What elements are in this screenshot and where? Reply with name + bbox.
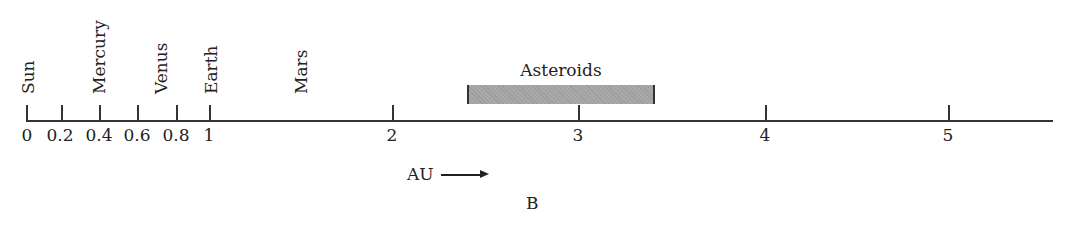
label-mars: Mars [291,50,311,94]
tick-label: 4 [760,125,771,145]
asteroids-label: Asteroids [520,60,601,80]
label-sun: Sun [18,60,38,94]
tick-label: 0 [22,125,33,145]
axis-line [26,120,1053,122]
tick-4 [765,105,767,120]
tick-2 [392,105,394,120]
tick-label: 0.8 [162,125,189,145]
tick-0.4 [99,105,101,120]
tick-5 [948,105,950,120]
tick-label: 0.2 [46,125,73,145]
asteroid-belt-bar [467,85,655,104]
tick-0 [26,105,28,120]
tick-0.8 [176,105,178,120]
tick-label: 0.6 [123,125,150,145]
tick-label: 1 [204,125,215,145]
arrow-right-icon [441,174,481,176]
label-venus: Venus [151,43,171,94]
tick-label: 0.4 [85,125,112,145]
figure-label: B [526,193,539,213]
tick-label: 5 [943,125,954,145]
tick-label: 2 [387,125,398,145]
label-mercury: Mercury [89,20,109,94]
tick-3 [578,105,580,120]
label-earth: Earth [201,46,221,94]
tick-label: 3 [573,125,584,145]
tick-1 [209,105,211,120]
unit-label: AU [407,164,434,184]
tick-0.6 [137,105,139,120]
tick-0.2 [61,105,63,120]
